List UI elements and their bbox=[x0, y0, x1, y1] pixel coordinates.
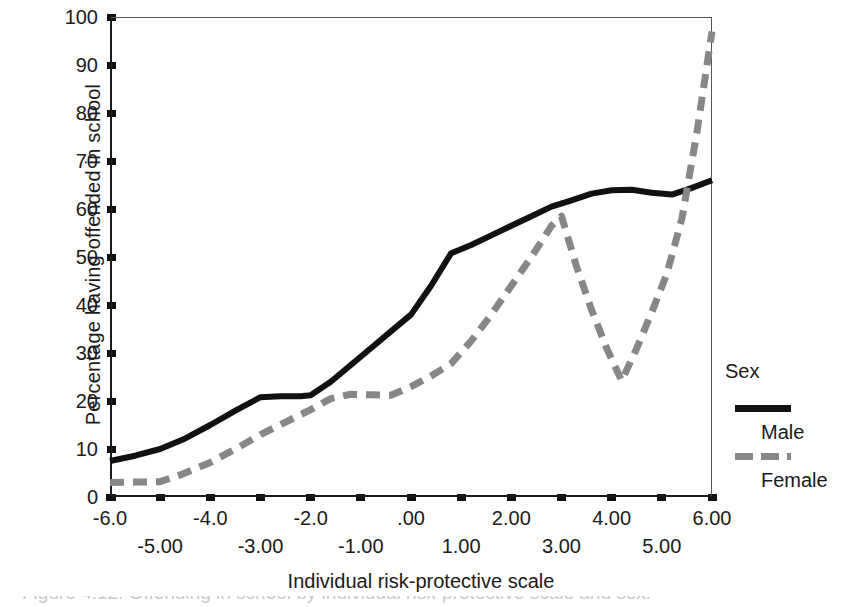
y-tick-label: 60 bbox=[52, 199, 98, 219]
figure-caption-cutoff: Figure 4.12. Offending in school by indi… bbox=[0, 596, 842, 607]
x-tick-label: 2.00 bbox=[492, 508, 531, 528]
y-tick-label: 70 bbox=[52, 151, 98, 171]
y-tick-label: 20 bbox=[52, 391, 98, 411]
y-tick-label: 100 bbox=[52, 7, 98, 27]
x-tick-label: 5.00 bbox=[642, 536, 681, 556]
x-tick-label: -4.0 bbox=[193, 508, 227, 528]
figure-caption-text: Figure 4.12. Offending in school by indi… bbox=[22, 596, 651, 604]
x-tick-label: -5.00 bbox=[137, 536, 183, 556]
series-lines bbox=[110, 17, 712, 497]
y-tick-label: 50 bbox=[52, 247, 98, 267]
series-line-male bbox=[110, 180, 712, 461]
series-line-female bbox=[110, 31, 712, 482]
y-axis-tick-labels: 1009080706050403020100 bbox=[52, 0, 98, 607]
x-tick-label: 3.00 bbox=[542, 536, 581, 556]
chart-figure: Percentage having offended in school 100… bbox=[0, 0, 842, 607]
y-tick-label: 0 bbox=[52, 487, 98, 507]
x-tick-label: -2.0 bbox=[293, 508, 327, 528]
x-tick-label: -1.00 bbox=[338, 536, 384, 556]
x-tick-label: .00 bbox=[397, 508, 425, 528]
legend-entry-female: Female bbox=[723, 453, 841, 501]
legend-entry-male: Male bbox=[723, 405, 841, 453]
legend-swatch-male-line bbox=[735, 405, 791, 412]
legend-label-female: Female bbox=[761, 469, 828, 492]
x-tick-label: 1.00 bbox=[442, 536, 481, 556]
y-tick-label: 40 bbox=[52, 295, 98, 315]
y-tick-label: 30 bbox=[52, 343, 98, 363]
x-tick-label: -3.00 bbox=[238, 536, 284, 556]
x-tick-label: 6.00 bbox=[693, 508, 732, 528]
plot-area bbox=[110, 17, 712, 497]
x-axis-title: Individual risk-protective scale bbox=[0, 570, 842, 593]
legend: Sex Male Female bbox=[723, 360, 841, 501]
x-tick-label: 4.00 bbox=[592, 508, 631, 528]
y-tick-label: 80 bbox=[52, 103, 98, 123]
legend-swatch-female-line bbox=[735, 453, 791, 460]
x-tick-label: -6.0 bbox=[93, 508, 127, 528]
y-tick-label: 90 bbox=[52, 55, 98, 75]
legend-label-male: Male bbox=[761, 421, 804, 444]
y-tick-label: 10 bbox=[52, 439, 98, 459]
legend-title: Sex bbox=[725, 360, 841, 383]
